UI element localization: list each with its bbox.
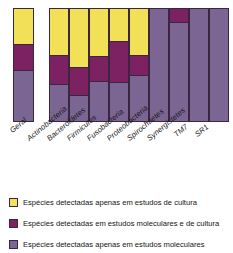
bar-spirochaetes[interactable]: [149, 8, 169, 122]
legend-swatch-icon: [9, 198, 18, 207]
segment-molecular-only: [190, 8, 208, 122]
segment-culture-only: [70, 8, 88, 67]
bar-synergistetes[interactable]: [169, 8, 189, 122]
segment-molecular-and-culture: [170, 8, 188, 22]
segment-molecular-and-culture: [130, 55, 148, 76]
bar-sr1[interactable]: [209, 8, 229, 122]
segment-molecular-and-culture: [70, 67, 88, 94]
bar-tm7[interactable]: [189, 8, 209, 122]
legend-label: Espécies detectadas apenas em estudos de…: [23, 198, 197, 207]
segment-molecular-and-culture: [110, 41, 128, 82]
bar-geral[interactable]: [13, 8, 34, 122]
segment-molecular-and-culture: [50, 55, 68, 85]
segment-culture-only: [50, 8, 68, 55]
bar-fusobacteria[interactable]: [109, 8, 129, 122]
axis-label-sr1: SR1: [193, 122, 210, 139]
segment-molecular-and-culture: [14, 44, 33, 69]
bar-bacteroidetes[interactable]: [69, 8, 89, 122]
plot-area: [0, 0, 233, 122]
axis-label-tm7: TM7: [172, 122, 190, 139]
segment-molecular-only: [14, 70, 33, 122]
segment-culture-only: [90, 8, 108, 56]
legend-swatch-icon: [9, 240, 18, 249]
segment-molecular-only: [150, 8, 168, 122]
legend-label: Espécies detectadas em estudos molecular…: [23, 219, 219, 228]
legend-item-molecular-and-culture[interactable]: Espécies detectadas em estudos molecular…: [9, 213, 233, 234]
x-axis-labels: Geral Actinobacteria Bacteroidetes Firmi…: [0, 122, 233, 194]
segment-culture-only: [14, 8, 33, 44]
segment-culture-only: [130, 8, 148, 55]
bar-group-overall: [13, 8, 34, 122]
segment-culture-only: [110, 8, 128, 41]
segment-molecular-only: [210, 8, 228, 122]
legend-label: Espécies detectadas apenas em estudos mo…: [23, 240, 205, 249]
bar-firmicutes[interactable]: [89, 8, 109, 122]
legend-swatch-icon: [9, 219, 18, 228]
stacked-bar-chart: Geral Actinobacteria Bacteroidetes Firmi…: [0, 0, 233, 253]
bar-group-phyla: [49, 8, 229, 122]
legend-item-culture-only[interactable]: Espécies detectadas apenas em estudos de…: [9, 192, 233, 213]
chart-legend: Espécies detectadas apenas em estudos de…: [9, 192, 233, 253]
segment-molecular-and-culture: [90, 56, 108, 81]
bar-actinobacteria[interactable]: [49, 8, 69, 122]
legend-item-molecular-only[interactable]: Espécies detectadas apenas em estudos mo…: [9, 234, 233, 253]
